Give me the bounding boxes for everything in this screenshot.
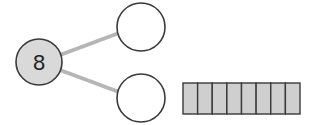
connector-bottom (60, 70, 119, 92)
tape-diagram (183, 83, 300, 114)
whole-circle: 8 (16, 39, 62, 85)
tape-cell (183, 83, 198, 114)
tape-cell (285, 83, 300, 114)
tape-cell (271, 83, 286, 114)
tape-cell (256, 83, 271, 114)
tape-cell (198, 83, 213, 114)
tape-cell (212, 83, 227, 114)
tape-cell (242, 83, 257, 114)
connector-top (60, 33, 119, 55)
tape-cell (227, 83, 242, 114)
whole-value: 8 (33, 50, 45, 75)
part-circle-bottom[interactable] (117, 74, 165, 122)
part-circle-top[interactable] (117, 3, 165, 51)
number-bond-diagram: 8 (0, 0, 316, 125)
